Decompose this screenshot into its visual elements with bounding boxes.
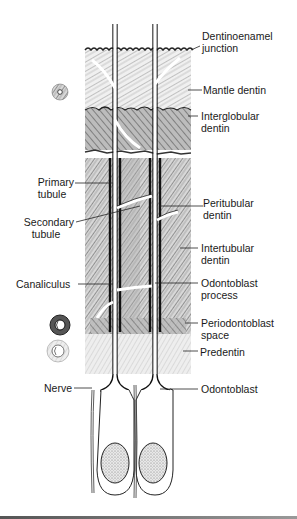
label-intertubular-dentin: Intertubular dentin (201, 242, 263, 266)
label-text: junction (202, 42, 284, 54)
label-text: Intertubular (201, 242, 263, 254)
label-periodontoblast-space: Periodontoblast space (201, 317, 277, 341)
label-text: Dentinoenamel (202, 30, 284, 42)
label-text: Interglobular (201, 110, 269, 122)
label-dentinoenamel-junction: Dentinoenamel junction (202, 30, 284, 54)
label-text: tubule (30, 188, 74, 200)
label-text: tubule (18, 228, 74, 240)
label-interglobular-dentin: Interglobular dentin (201, 110, 269, 134)
label-text: dentin (201, 122, 269, 134)
intertubular-dentin-region (85, 158, 191, 334)
label-text: Peritubular (203, 197, 261, 209)
label-text: process (201, 289, 263, 301)
label-text: Canaliculus (16, 278, 70, 290)
predentin-region (85, 334, 191, 374)
label-odontoblast: Odontoblast (201, 383, 258, 395)
label-text: space (201, 329, 277, 341)
label-text: dentin (203, 209, 261, 221)
label-text: dentin (201, 254, 263, 266)
tubule-cross-section-middle (50, 315, 70, 335)
label-secondary-tubule: Secondary tubule (18, 216, 74, 240)
odontoblast-nucleus (101, 443, 129, 483)
label-text: Odontoblast (201, 383, 258, 395)
label-text: Odontoblast (201, 277, 263, 289)
label-odontoblast-process: Odontoblast process (201, 277, 263, 301)
label-predentin: Predentin (200, 346, 245, 358)
label-primary-tubule: Primary tubule (22, 176, 74, 200)
label-text: Primary (22, 176, 74, 188)
label-peritubular-dentin: Peritubular dentin (203, 197, 261, 221)
tubule-cross-section-bottom (47, 340, 69, 362)
odontoblast-nucleus (139, 443, 167, 483)
periodontoblast-space-region (90, 318, 186, 334)
dentinoenamel-junction-line (85, 48, 193, 50)
mantle-dentin-region (85, 48, 193, 110)
label-mantle-dentin: Mantle dentin (203, 84, 266, 96)
label-canaliculus: Canaliculus (16, 278, 70, 290)
label-text: Periodontoblast (201, 317, 277, 329)
interglobular-dentin-region (85, 107, 191, 150)
label-text: Secondary (18, 216, 74, 228)
label-nerve: Nerve (44, 382, 72, 394)
label-text: Nerve (44, 382, 72, 394)
label-text: Predentin (200, 346, 245, 358)
tubule-cross-section-top (52, 84, 68, 100)
label-text: Mantle dentin (203, 84, 266, 96)
